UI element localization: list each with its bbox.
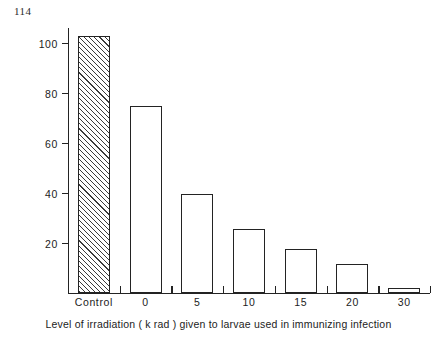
x-tick-4 xyxy=(275,286,276,293)
x-tick-3 xyxy=(223,286,224,293)
y-tick-20: 20 xyxy=(62,243,69,244)
x-tick-label-0: 0 xyxy=(142,296,148,308)
bar-15 xyxy=(285,249,317,293)
y-tick-60: 60 xyxy=(62,143,69,144)
x-tick-2 xyxy=(171,286,172,293)
bar-5 xyxy=(181,194,213,293)
bar-30 xyxy=(388,288,420,293)
x-tick-label-20: 20 xyxy=(346,296,359,308)
bar-10 xyxy=(233,229,265,293)
y-tick-label: 100 xyxy=(39,38,58,50)
x-tick-6 xyxy=(378,286,379,293)
y-tick-label: 20 xyxy=(45,238,58,250)
y-tick-label: 80 xyxy=(45,88,58,100)
y-tick-80: 80 xyxy=(62,93,69,94)
y-tick-40: 40 xyxy=(62,193,69,194)
x-tick-label-15: 15 xyxy=(294,296,307,308)
x-tick-1 xyxy=(120,286,121,293)
bar-chart-figure: 20406080100 Control0510152030 Mean no of… xyxy=(0,0,437,341)
y-tick-label: 40 xyxy=(45,188,58,200)
bar-0 xyxy=(130,106,162,294)
x-tick-label-5: 5 xyxy=(194,296,200,308)
y-axis-line xyxy=(68,28,69,294)
x-tick-label-control: Control xyxy=(75,296,113,308)
x-axis-title: Level of irradiation ( k rad ) given to … xyxy=(0,318,437,330)
bar-20 xyxy=(336,264,368,293)
x-tick-5 xyxy=(327,286,328,293)
x-tick-label-30: 30 xyxy=(398,296,411,308)
x-tick-label-10: 10 xyxy=(243,296,256,308)
y-tick-label: 60 xyxy=(45,138,58,150)
bar-control xyxy=(78,36,110,294)
y-tick-100: 100 xyxy=(62,43,69,44)
x-tick-7 xyxy=(430,286,431,293)
